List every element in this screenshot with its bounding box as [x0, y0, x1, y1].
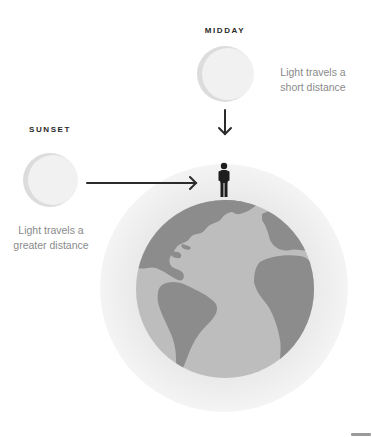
sunset-caption-line2: greater distance: [8, 238, 94, 253]
corner-mark: [351, 433, 371, 436]
sunset-caption-line1: Light travels a: [8, 223, 94, 238]
midday-caption-line1: Light travels a: [276, 65, 350, 80]
midday-heading: MIDDAY: [195, 26, 255, 35]
midday-arrow-down-icon: [219, 110, 231, 134]
midday-caption-line2: short distance: [276, 80, 350, 95]
sunset-sun: [23, 153, 78, 207]
midday-sun: [197, 46, 254, 102]
sunset-caption: Light travels a greater distance: [8, 223, 94, 253]
sunset-heading: SUNSET: [20, 125, 80, 134]
midday-caption: Light travels a short distance: [276, 65, 350, 95]
